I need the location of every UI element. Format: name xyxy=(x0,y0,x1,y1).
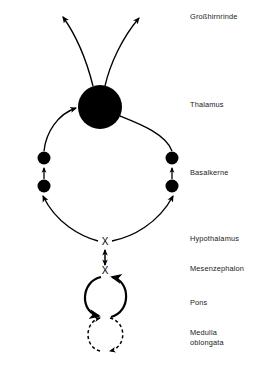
medulla-oblongata-loop xyxy=(88,318,123,351)
label-medulla-line2: oblongata xyxy=(190,338,225,347)
thalamus-to-basal-right-pathway xyxy=(120,116,172,151)
basal-left-to-thalamus-pathway xyxy=(44,108,76,151)
hypothalamus-to-basal-left-arrow xyxy=(43,196,98,241)
basal-ganglia-left xyxy=(38,152,51,193)
basal-ganglia-right xyxy=(166,152,179,193)
pons-loop-left-branch xyxy=(85,277,101,316)
hypothalamus-to-basal-pathways xyxy=(43,196,173,241)
thalamus-to-basal-right-line xyxy=(120,116,172,151)
region-labels: Großhirnrinde Thalamus Basalkerne Hypoth… xyxy=(190,12,244,347)
basal-node-left-upper xyxy=(38,152,51,165)
brain-circuit-diagram: X X Großhirnrinde Thalamus Basalkerne Hy… xyxy=(0,0,266,366)
basal-node-right-upper xyxy=(166,152,179,165)
pons-loop xyxy=(85,277,126,317)
basal-node-left-lower xyxy=(38,180,51,193)
label-hypothalamus: Hypothalamus xyxy=(190,234,239,243)
pons-loop-right-branch xyxy=(111,277,126,317)
hypothalamus-to-basal-right-arrow xyxy=(112,196,173,241)
label-medulla-line1: Medulla xyxy=(190,328,218,337)
diagram-canvas: X X Großhirnrinde Thalamus Basalkerne Hy… xyxy=(0,0,266,366)
label-grosshirnrinde: Großhirnrinde xyxy=(190,12,238,21)
medulla-loop-left-branch xyxy=(88,318,100,351)
thalamus-to-cortex-left-arrow xyxy=(63,17,93,86)
label-mesenzephalon: Mesenzephalon xyxy=(190,264,244,273)
label-basalkerne: Basalkerne xyxy=(190,168,228,177)
basal-left-to-thalamus-arrow xyxy=(44,108,76,151)
thalamus-to-cortex-right-arrow xyxy=(105,18,139,86)
thalamus-to-cortex-pathways xyxy=(63,17,139,86)
label-thalamus: Thalamus xyxy=(190,100,224,109)
medulla-loop-right-branch xyxy=(110,318,123,351)
hypothalamus-crossing-mark: X xyxy=(102,236,109,247)
thalamus-node xyxy=(78,85,122,129)
mesencephalon-crossing-mark: X xyxy=(102,265,109,276)
basal-node-right-lower xyxy=(166,180,179,193)
label-pons: Pons xyxy=(190,298,208,307)
